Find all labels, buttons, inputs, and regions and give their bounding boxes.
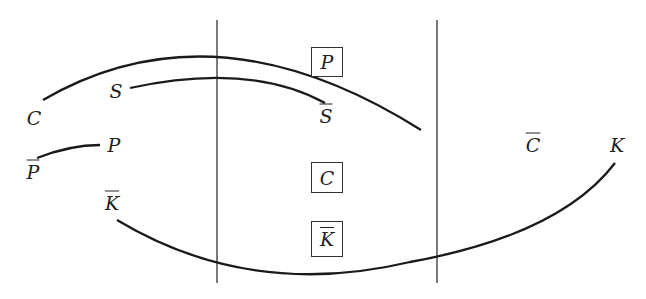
label-k-bar: K xyxy=(105,194,119,213)
label-s: S xyxy=(109,82,122,101)
box-k-bar-label: K xyxy=(320,228,334,250)
arc-s-to-sbar xyxy=(130,78,325,103)
arc-c-to-cbar xyxy=(43,57,421,130)
box-c-label: C xyxy=(320,167,335,189)
box-p: P xyxy=(311,47,343,77)
label-c: C xyxy=(27,109,42,128)
box-k-bar: K xyxy=(311,221,343,257)
label-k: K xyxy=(610,136,624,155)
label-p-bar: P xyxy=(27,163,40,182)
label-p: P xyxy=(108,136,121,155)
arc-kbar-to-k xyxy=(117,163,615,274)
box-c: C xyxy=(311,162,343,193)
label-s-bar: S xyxy=(319,107,332,126)
label-c-bar: C xyxy=(526,136,541,155)
box-p-label: P xyxy=(321,51,334,73)
arc-pbar-to-p xyxy=(37,145,100,158)
